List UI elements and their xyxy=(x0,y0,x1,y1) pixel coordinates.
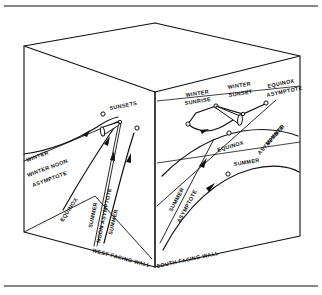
label-sunsets: SUNSETS xyxy=(109,100,138,111)
label-south-summer: SUMMER xyxy=(233,157,260,167)
label-west-summer-noon-asymptote-line1: SUMMER xyxy=(87,201,98,228)
west-wall-arrowheads xyxy=(82,130,131,163)
west-floor-line xyxy=(24,196,95,232)
box-top-face xyxy=(24,23,300,92)
node-south-summer-mid xyxy=(226,172,230,176)
solar-path-diagram: SUNSETS WINTER WINTER NOON ASYMPTOTE EQU… xyxy=(0,0,322,295)
label-west-facing-wall: WEST FACING WALL xyxy=(92,247,152,268)
wall-name-label-group: WEST FACING WALL SOUTH FACING WALL xyxy=(92,247,220,269)
node-west-summer-end xyxy=(135,126,139,130)
node-south-winter-sunrise xyxy=(186,122,190,126)
node-west-winter-end xyxy=(101,112,105,116)
south-wall-label-group: WINTER SUNRISE WINTER SUNSET EQUINOX ASY… xyxy=(168,77,303,223)
figure-page: SUNSETS WINTER WINTER NOON ASYMPTOTE EQU… xyxy=(0,0,322,295)
node-south-equinox-mid xyxy=(227,131,231,135)
label-south-winter-sunset-line2: SUNSET xyxy=(228,88,253,98)
south-wall-arrowheads xyxy=(199,129,215,192)
south-cone-body xyxy=(216,106,240,124)
south-cone-base-ellipse xyxy=(237,115,243,126)
label-south-summer-asymptote-right-line2: ASYMPTOTE xyxy=(256,124,285,156)
room-box-outline xyxy=(24,23,300,267)
node-south-equinox-asymptote-end xyxy=(264,101,268,105)
south-winter-sunrise-lead xyxy=(188,106,216,124)
south-equinox-path xyxy=(162,130,298,176)
label-south-facing-wall: SOUTH FACING WALL xyxy=(156,250,220,269)
